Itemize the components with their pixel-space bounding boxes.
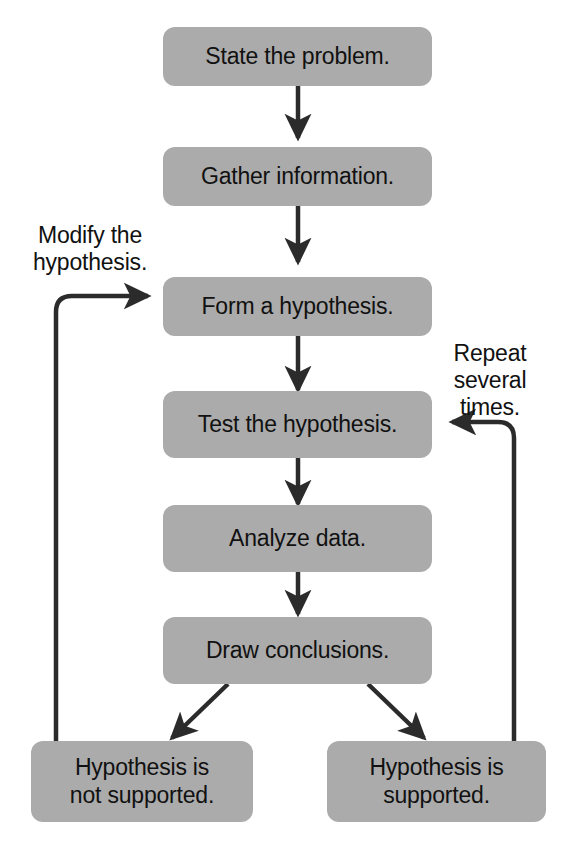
edge-label-modify-hypothesis: Modify the hypothesis. xyxy=(14,222,166,276)
edge-draw-to-not-supported xyxy=(172,684,228,738)
node-form-hypothesis[interactable]: Form a hypothesis. xyxy=(163,277,432,336)
edge-label-repeat-several-times: Repeat several times. xyxy=(430,340,550,421)
edge-repeat-loop xyxy=(452,422,514,760)
node-gather-information[interactable]: Gather information. xyxy=(163,147,432,206)
node-label: State the problem. xyxy=(169,43,426,70)
node-analyze-data[interactable]: Analyze data. xyxy=(163,505,432,572)
node-label: Form a hypothesis. xyxy=(169,293,426,320)
node-test-hypothesis[interactable]: Test the hypothesis. xyxy=(163,391,432,458)
node-draw-conclusions[interactable]: Draw conclusions. xyxy=(163,617,432,684)
edge-draw-to-supported xyxy=(368,684,424,738)
flowchart-canvas: State the problem. Gather information. F… xyxy=(0,0,561,844)
node-hypothesis-not-supported[interactable]: Hypothesis is not supported. xyxy=(31,741,253,822)
node-label: Hypothesis is not supported. xyxy=(37,754,247,808)
node-label: Gather information. xyxy=(169,163,426,190)
node-hypothesis-supported[interactable]: Hypothesis is supported. xyxy=(327,741,546,822)
edge-modify-loop xyxy=(56,296,148,760)
node-state-problem[interactable]: State the problem. xyxy=(163,27,432,86)
node-label: Test the hypothesis. xyxy=(169,411,426,438)
node-label: Hypothesis is supported. xyxy=(333,754,540,808)
node-label: Draw conclusions. xyxy=(169,637,426,664)
node-label: Analyze data. xyxy=(169,525,426,552)
